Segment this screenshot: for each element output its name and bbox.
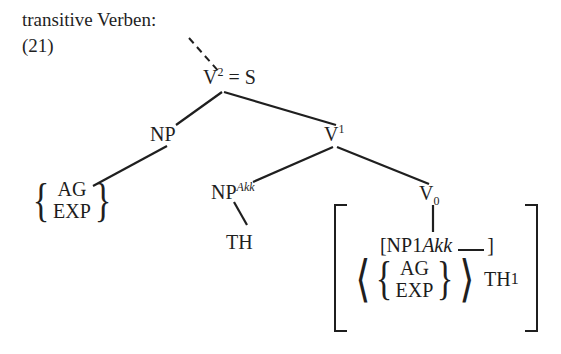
subcat-close-bracket: ] (487, 235, 494, 255)
tree-node-root-equals: = S (228, 66, 255, 88)
edge-object-to-theme (234, 202, 247, 225)
theta-brace-left: { (375, 260, 392, 298)
tree-node-vbar-label: V (324, 123, 338, 145)
matrix-body: [NP1Akk] ⟨ { AG EXP } ⟩ TH1 (347, 204, 525, 332)
theta-role-set: { AG EXP } (373, 257, 457, 302)
theta-role-agent: AG (400, 257, 429, 279)
lexical-entry-matrix: [NP1Akk] ⟨ { AG EXP } ⟩ TH1 (334, 204, 538, 332)
theta-brace-right: } (437, 260, 454, 298)
matrix-row-subcat: [NP1Akk] (378, 235, 494, 255)
tree-node-root: V2 = S (203, 67, 256, 87)
tree-node-vbar-superscript: 1 (338, 122, 344, 136)
tree-node-root-label: V (203, 66, 217, 88)
subcat-open-bracket: [ (380, 235, 387, 255)
tree-node-object-superscript: Akk (237, 180, 255, 194)
theta-theme-index: 1 (511, 271, 519, 287)
edge-root-to-vbar (224, 92, 336, 125)
edge-root-to-np (176, 92, 222, 125)
brace-left-glyph: { (33, 182, 50, 220)
subcat-gap-underline (458, 238, 484, 251)
subcat-category: NP (387, 235, 413, 255)
edge-vbar-to-object (253, 147, 333, 182)
subject-role-experiencer: EXP (53, 200, 91, 222)
theta-role-experiencer: EXP (396, 279, 434, 301)
tree-node-subject-np: NP (150, 124, 176, 144)
tree-node-head-label: V (419, 182, 433, 204)
matrix-bracket-left (334, 204, 347, 332)
tree-node-head-v0: V0 (419, 183, 439, 203)
theta-theme: TH (476, 269, 511, 289)
edge-vbar-to-head (337, 147, 429, 184)
angle-bracket-left: ⟨ (355, 259, 370, 299)
matrix-bracket-right (525, 204, 538, 332)
tree-node-theme: TH (226, 232, 253, 252)
theta-role-stack: AG EXP (395, 257, 435, 302)
subcat-index: 1 (412, 235, 422, 255)
subject-role-set: { AG EXP } (30, 178, 114, 223)
tree-node-object-np: NPAkk (211, 182, 255, 202)
subcat-case: Akk (422, 235, 452, 255)
brace-right-glyph: } (95, 182, 112, 220)
matrix-row-theta-grid: ⟨ { AG EXP } ⟩ TH1 (353, 257, 519, 302)
angle-bracket-right: ⟩ (459, 259, 474, 299)
syntax-tree-figure: transitive Verben: (21) V2 = S NP { AG E… (0, 0, 561, 354)
tree-node-root-superscript: 2 (217, 65, 223, 79)
subject-role-agent: AG (58, 178, 87, 200)
subject-role-stack: AG EXP (52, 178, 92, 223)
tree-node-vbar: V1 (324, 124, 344, 144)
tree-node-object-label: NP (211, 181, 237, 203)
